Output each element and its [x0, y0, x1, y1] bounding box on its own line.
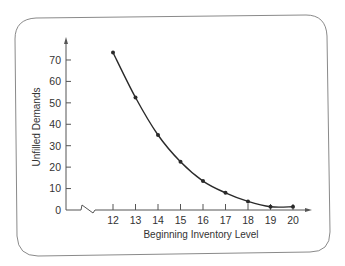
x-tick-label: 19 — [265, 214, 277, 226]
y-tick-label: 10 — [49, 182, 61, 194]
y-axis-ticks: 010203040506070 — [49, 54, 71, 216]
x-tick-label: 16 — [197, 214, 209, 226]
x-tick-label: 15 — [175, 214, 187, 226]
data-point-marker — [201, 179, 205, 183]
chart-figure: 010203040506070 121314151617181920 Begin… — [0, 0, 345, 266]
data-point-marker — [224, 191, 228, 195]
x-tick-label: 14 — [152, 214, 164, 226]
x-axis-arrow-icon — [305, 208, 312, 212]
x-tick-label: 18 — [242, 214, 254, 226]
x-tick-label: 17 — [220, 214, 232, 226]
x-tick-label: 20 — [287, 214, 299, 226]
data-point-marker — [111, 50, 115, 54]
chart-frame — [15, 15, 330, 256]
data-point-marker — [269, 205, 273, 209]
y-axis-arrow-icon — [64, 37, 68, 44]
data-point-marker — [291, 205, 295, 209]
data-curve — [113, 52, 293, 207]
data-point-marker — [246, 199, 250, 203]
y-tick-label: 60 — [49, 75, 61, 87]
data-markers — [111, 50, 295, 208]
x-tick-label: 13 — [130, 214, 142, 226]
y-tick-label: 20 — [49, 161, 61, 173]
data-point-marker — [134, 95, 138, 99]
x-tick-label: 12 — [107, 214, 119, 226]
y-tick-label: 70 — [49, 54, 61, 66]
data-point-marker — [179, 160, 183, 164]
y-tick-label: 0 — [55, 204, 61, 216]
y-axis-title: Unfilled Demands — [31, 88, 42, 167]
data-point-marker — [156, 133, 160, 137]
x-axis-title: Beginning Inventory Level — [143, 229, 258, 240]
y-tick-label: 40 — [49, 118, 61, 130]
axes — [64, 37, 312, 213]
y-tick-label: 30 — [49, 140, 61, 152]
y-tick-label: 50 — [49, 97, 61, 109]
